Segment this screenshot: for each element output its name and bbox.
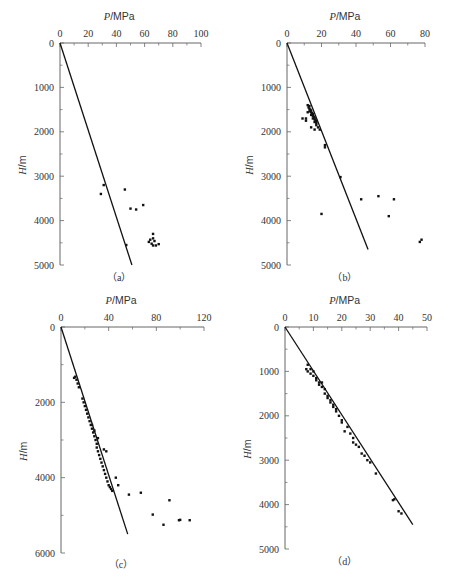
data-point [329, 401, 331, 403]
data-point [352, 441, 354, 443]
x-axis-title: P/MPa [103, 10, 135, 22]
data-point [168, 499, 170, 501]
y-axis-title: H/m [16, 155, 28, 176]
x-tick-label: 30 [365, 312, 375, 323]
y-tick-label: 4000 [261, 215, 281, 226]
y-tick-label: 2000 [261, 126, 281, 137]
data-point [363, 455, 365, 457]
data-point [321, 386, 323, 388]
data-point [86, 412, 88, 414]
y-tick-label: 2000 [35, 397, 55, 408]
x-tick-label: 0 [283, 312, 288, 323]
data-point [103, 448, 105, 450]
data-point [315, 124, 317, 126]
data-point [319, 128, 321, 130]
y-tick-label: 1000 [261, 82, 281, 93]
data-point [349, 432, 351, 434]
x-tick-label: 20 [337, 312, 347, 323]
data-point [82, 401, 84, 403]
data-point [321, 381, 323, 383]
data-point [85, 409, 87, 411]
y-axis-title: H/m [241, 439, 253, 460]
data-point [307, 370, 309, 372]
x-tick-label: 20 [317, 28, 327, 39]
data-point [99, 458, 101, 460]
y-tick-label: 0 [274, 322, 279, 333]
data-point [309, 368, 311, 370]
data-point [115, 476, 117, 478]
data-point [106, 480, 108, 482]
x-tick-label: 20 [83, 28, 93, 39]
data-point [324, 144, 326, 146]
data-point [310, 126, 312, 128]
chart-panel-c: 040801200200040006000P/MPaH/m（c） [17, 294, 212, 570]
data-point [312, 370, 314, 372]
data-point [341, 421, 343, 423]
data-point [94, 439, 96, 441]
data-point [100, 193, 102, 195]
y-tick-label: 3000 [34, 171, 54, 182]
data-point [129, 207, 131, 209]
data-point [81, 397, 83, 399]
data-point [388, 215, 390, 217]
data-point [335, 410, 337, 412]
data-point [152, 237, 154, 239]
data-point [97, 450, 99, 452]
data-point [326, 395, 328, 397]
panel-label: （c） [109, 559, 133, 570]
data-point [419, 241, 421, 243]
y-tick-label: 5000 [34, 260, 54, 271]
data-point [375, 472, 377, 474]
data-point [189, 519, 191, 521]
data-point [96, 446, 98, 448]
x-tick-label: 80 [151, 312, 161, 323]
data-point [305, 368, 307, 370]
x-axis-title: P/MPa [328, 294, 360, 306]
x-tick-label: 60 [386, 28, 396, 39]
data-point [332, 406, 334, 408]
data-point [152, 233, 154, 235]
data-point [158, 243, 160, 245]
x-tick-label: 0 [58, 28, 63, 39]
data-point [360, 198, 362, 200]
y-tick-label: 0 [50, 322, 55, 333]
data-point [355, 443, 357, 445]
chart-panel-b: 020406080010002000300040005000P/MPaH/m（b… [243, 10, 430, 283]
data-point [369, 461, 371, 463]
y-axis-title: H/m [17, 441, 29, 462]
data-point [155, 244, 157, 246]
data-point [360, 452, 362, 454]
data-point [76, 382, 78, 384]
x-tick-label: 0 [59, 312, 64, 323]
data-point [397, 510, 399, 512]
data-point [91, 428, 93, 430]
data-point [78, 386, 80, 388]
x-tick-label: 40 [394, 312, 404, 323]
trend-line [287, 43, 368, 249]
data-point [307, 111, 309, 113]
y-tick-label: 4000 [35, 472, 55, 483]
chart-panel-d: 01020304050010002000300040005000P/MPaH/m… [241, 294, 432, 567]
data-point [162, 524, 164, 526]
data-point [313, 128, 315, 130]
data-point [301, 117, 303, 119]
x-tick-label: 40 [351, 28, 361, 39]
data-point [320, 213, 322, 215]
data-point [305, 117, 307, 119]
data-point [179, 519, 181, 521]
data-point [366, 459, 368, 461]
data-point [420, 238, 422, 240]
data-point [307, 364, 309, 366]
x-tick-label: 40 [111, 28, 121, 39]
trend-line [60, 43, 132, 265]
data-point [377, 195, 379, 197]
x-axis-title: P/MPa [105, 294, 137, 306]
y-axis-title: H/m [243, 155, 255, 176]
data-point [152, 244, 154, 246]
data-point [358, 446, 360, 448]
x-tick-label: 50 [422, 312, 432, 323]
y-tick-label: 3000 [261, 171, 281, 182]
data-point [153, 240, 155, 242]
x-axis-title: P/MPa [328, 10, 360, 22]
y-tick-label: 5000 [259, 544, 279, 555]
